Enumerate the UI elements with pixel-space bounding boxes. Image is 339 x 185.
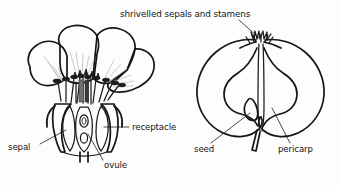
ovule-left-inner — [82, 118, 86, 125]
label-seed: seed — [194, 144, 214, 154]
ovary-chamber-center — [76, 107, 93, 152]
leader-seed — [211, 113, 250, 143]
apple-core-left — [224, 48, 258, 126]
leader-shrivelled — [239, 20, 259, 38]
petal-far-right — [108, 49, 154, 92]
flower-figure — [28, 25, 154, 162]
apple-outline-left — [197, 40, 262, 137]
apple-calyx-basin — [240, 42, 281, 48]
botanical-diagram: shrivelled sepals and stamens sepal ovul… — [0, 0, 339, 185]
apple-figure — [197, 31, 324, 151]
label-receptacle: receptacle — [132, 122, 176, 132]
label-ovule: ovule — [104, 160, 127, 170]
ovule-center — [80, 133, 87, 143]
title-shrivelled-sepals-stamens: shrivelled sepals and stamens — [120, 9, 251, 19]
apple-outline-right — [259, 40, 324, 137]
flower-pedicel — [80, 152, 88, 162]
ovule-left — [80, 115, 88, 127]
apple-seed — [244, 99, 258, 121]
leader-lines — [40, 20, 290, 160]
label-pericarp: pericarp — [278, 144, 313, 154]
shrivelled-sepals-stamens — [246, 31, 273, 43]
diagram-canvas: shrivelled sepals and stamens sepal ovul… — [0, 0, 339, 185]
receptacle-wall-right — [101, 104, 118, 152]
receptacle-wall — [53, 104, 71, 152]
petal-right-mid — [93, 28, 135, 84]
apple-core-right — [263, 48, 297, 126]
label-sepal: sepal — [8, 142, 30, 152]
